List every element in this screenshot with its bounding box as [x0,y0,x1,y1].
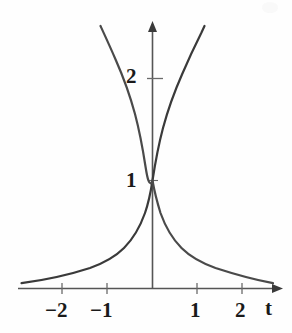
y-tick-label-2: 2 [126,66,137,87]
x-tick-label-minus2: −2 [45,300,67,321]
y-tick-label-1: 1 [126,170,137,191]
exponential-curves-figure: −2 −1 1 2 1 2 t [0,0,292,333]
x-axis-arrowhead [272,284,283,293]
plot-canvas [0,0,292,333]
x-tick-label-plus2: 2 [235,300,246,321]
y-axis-arrowhead [148,21,157,32]
y-axis [147,21,163,289]
x-axis [18,283,283,294]
x-axis-name-label: t [265,298,272,319]
x-tick-label-minus1: −1 [90,300,112,321]
x-tick-label-plus1: 1 [190,300,201,321]
